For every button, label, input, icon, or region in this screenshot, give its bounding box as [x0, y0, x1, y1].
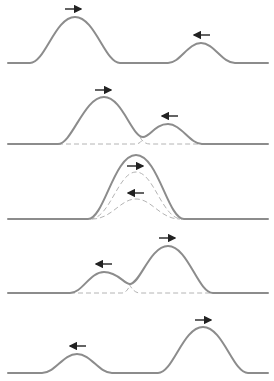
panel-5-after-overlap: [8, 320, 268, 373]
panel-3-full-overlap: [8, 155, 268, 219]
panel-1-before-overlap: [8, 9, 268, 63]
large-pulse-component-dashed: [129, 284, 213, 293]
wave-curve: [8, 327, 268, 373]
panel-2-partial-overlap: [8, 90, 268, 144]
wave-curve: [8, 155, 268, 219]
large-pulse-component-dashed: [90, 172, 182, 219]
superposition-diagram: [0, 0, 274, 381]
panel-4-separating: [8, 238, 268, 293]
wave-curve: [8, 246, 268, 293]
wave-curve: [8, 17, 268, 63]
wave-curve: [8, 97, 268, 144]
large-pulse-component-dashed: [58, 137, 144, 144]
